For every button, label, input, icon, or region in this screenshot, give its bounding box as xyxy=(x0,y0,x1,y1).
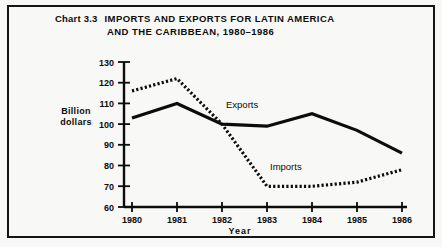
y-tick-label-80: 80 xyxy=(104,161,114,171)
chart-page: Chart 3.3IMPORTS AND EXPORTS FOR LATIN A… xyxy=(0,0,442,247)
x-axis-title: Year xyxy=(180,226,300,236)
series-annotation-exports: Exports xyxy=(226,99,258,110)
y-tick-label-120: 120 xyxy=(99,78,114,88)
y-tick-label-130: 130 xyxy=(99,58,114,68)
x-tick-label-1984: 1984 xyxy=(302,215,322,225)
y-axis-tick-labels: 130 120 110 100 90 80 70 60 xyxy=(99,58,114,213)
plot-area: 130 120 110 100 90 80 70 60 1 xyxy=(0,0,442,247)
y-tick-label-70: 70 xyxy=(104,182,114,192)
x-tick-label-1986: 1986 xyxy=(392,215,412,225)
y-axis-title: Billion dollars xyxy=(45,106,107,128)
y-axis-title-line-1: Billion xyxy=(45,106,107,117)
x-tick-label-1985: 1985 xyxy=(347,215,367,225)
y-axis-title-line-2: dollars xyxy=(45,117,107,128)
x-tick-label-1983: 1983 xyxy=(257,215,277,225)
y-tick-label-90: 90 xyxy=(104,140,114,150)
series-line-exports xyxy=(132,103,402,153)
x-axis-tick-labels: 1980 1981 1982 1983 1984 1985 1986 xyxy=(122,215,412,225)
series-annotation-imports: Imports xyxy=(270,161,302,172)
y-tick-label-60: 60 xyxy=(104,203,114,213)
x-tick-label-1981: 1981 xyxy=(167,215,187,225)
x-tick-label-1980: 1980 xyxy=(122,215,142,225)
x-tick-label-1982: 1982 xyxy=(212,215,232,225)
